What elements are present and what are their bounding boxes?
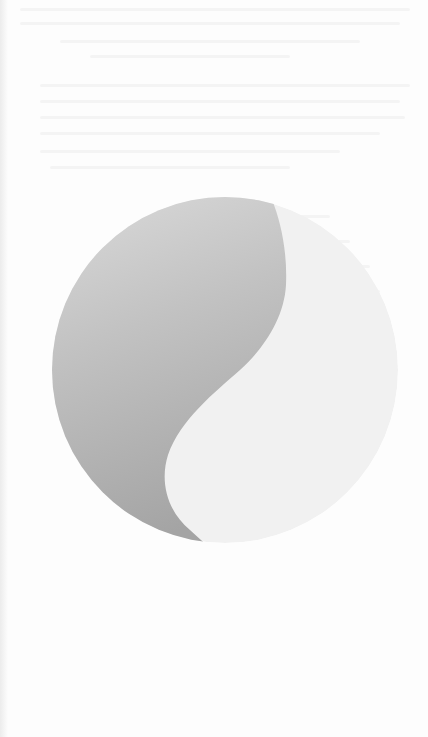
yin-yang-circle-graphic <box>0 0 428 737</box>
document-page <box>0 0 428 737</box>
